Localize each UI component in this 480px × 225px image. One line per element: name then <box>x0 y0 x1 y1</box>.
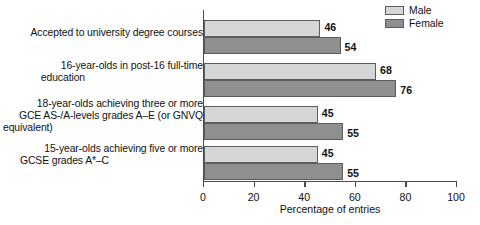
category-label-line: education <box>3 72 203 84</box>
x-axis-title: Percentage of entries <box>203 203 457 215</box>
bar-female[interactable] <box>204 163 343 180</box>
bar-chart: Accepted to university degree courses 16… <box>0 0 480 225</box>
bar-male[interactable] <box>204 106 318 123</box>
category-label-0: Accepted to university degree courses <box>3 27 203 39</box>
x-axis-tick-label: 20 <box>248 191 260 203</box>
x-axis-tick-label: 100 <box>447 191 465 203</box>
bar-value-male: 45 <box>322 147 334 159</box>
legend-swatch-male-icon <box>385 6 404 15</box>
bar-value-female: 55 <box>347 127 359 139</box>
x-axis-tick <box>405 182 406 187</box>
legend-swatch-female-icon <box>385 19 404 28</box>
bar-value-female: 76 <box>400 84 412 96</box>
bar-value-female: 54 <box>345 41 357 53</box>
category-label-line: 16-year-olds in post-16 full-time <box>3 60 203 72</box>
x-axis-tick <box>203 182 204 187</box>
bar-value-male: 68 <box>380 64 392 76</box>
legend-label-male: Male <box>409 5 432 16</box>
legend-item-female[interactable]: Female <box>385 18 444 29</box>
bar-value-female: 55 <box>347 167 359 179</box>
category-label-line: GCSE grades A*–C <box>3 155 203 167</box>
category-label-3: 15-year-olds achieving five or more GCSE… <box>3 143 203 167</box>
x-axis-tick-label: 0 <box>200 191 206 203</box>
category-label-line: 18-year-olds achieving three or more <box>3 98 203 110</box>
x-axis-tick-label: 40 <box>298 191 310 203</box>
bar-male[interactable] <box>204 63 376 80</box>
x-axis-tick <box>304 182 305 187</box>
bar-male[interactable] <box>204 20 320 37</box>
category-label-line: equivalent) <box>3 122 203 134</box>
category-label-1: 16-year-olds in post-16 full-time educat… <box>3 60 203 84</box>
x-axis-tick-label: 80 <box>399 191 411 203</box>
bar-female[interactable] <box>204 80 396 97</box>
x-axis-line <box>203 181 457 182</box>
bar-value-male: 46 <box>324 21 336 33</box>
legend-item-male[interactable]: Male <box>385 5 444 16</box>
category-label-line: 15-year-olds achieving five or more <box>3 143 203 155</box>
bar-female[interactable] <box>204 123 343 140</box>
bar-female[interactable] <box>204 37 341 54</box>
legend-label-female: Female <box>409 18 444 29</box>
category-label-2: 18-year-olds achieving three or more GCE… <box>3 98 203 135</box>
legend: Male Female <box>385 5 444 31</box>
plot-area: 0 20 40 60 80 100 46 54 68 76 45 55 45 5… <box>203 10 457 182</box>
category-label-line: Accepted to university degree courses <box>3 27 203 39</box>
bar-male[interactable] <box>204 146 318 163</box>
x-axis-tick-label: 60 <box>349 191 361 203</box>
bar-value-male: 45 <box>322 107 334 119</box>
category-label-line: GCE AS-/A-levels grades A–E (or GNVQ <box>3 110 203 122</box>
x-axis-tick <box>355 182 356 187</box>
x-axis-tick <box>456 182 457 187</box>
x-axis-tick <box>254 182 255 187</box>
